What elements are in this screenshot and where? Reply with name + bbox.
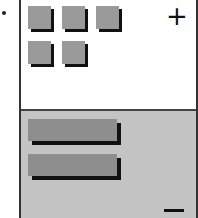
square-block [28,41,51,64]
square-block [28,6,51,29]
bar-block [28,154,117,176]
square-block [62,6,85,29]
bar-block [28,119,117,141]
square-block [96,6,119,29]
plus-icon: + [166,3,188,29]
minus-icon [164,209,184,212]
bottom-panel [21,111,196,218]
bullet-dot [2,11,6,15]
container-frame [19,0,198,218]
square-block [62,41,85,64]
